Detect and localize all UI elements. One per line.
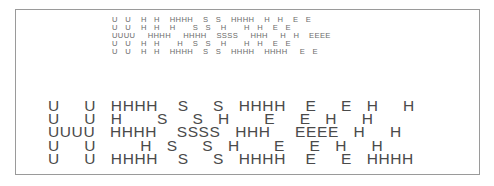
small-letter-art-banner: U U H H HHHH S S HHHH H H E EU U H H H S… xyxy=(112,16,331,56)
large-banner-row: U U HHHH S S HHHH E E HHHH xyxy=(48,152,415,165)
small-banner-row: U U H H HHHH S S HHHH HHHH E E xyxy=(112,48,331,56)
large-letter-art-banner: U U HHHH S S HHHH E E H HU U H S S H E E… xyxy=(48,99,415,165)
